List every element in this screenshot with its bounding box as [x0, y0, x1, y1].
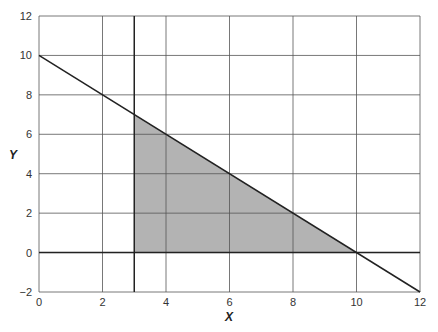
y-tick-label: 0 — [26, 247, 32, 259]
x-tick-label: 0 — [36, 296, 42, 308]
x-tick-label: 12 — [414, 296, 426, 308]
y-tick-label: 2 — [26, 207, 32, 219]
x-tick-label: 8 — [290, 296, 296, 308]
x-tick-label: 2 — [99, 296, 105, 308]
x-tick-label: 4 — [163, 296, 169, 308]
y-tick-label: 12 — [20, 10, 32, 22]
x-axis-label: X — [224, 310, 234, 324]
y-tick-label: 10 — [20, 49, 32, 61]
chart: 024681012−2024681012 X Y — [0, 0, 438, 332]
y-tick-label: −2 — [19, 286, 32, 298]
y-tick-label: 8 — [26, 89, 32, 101]
x-tick-label: 10 — [350, 296, 362, 308]
grid — [39, 16, 420, 292]
x-tick-label: 6 — [226, 296, 232, 308]
tick-labels: 024681012−2024681012 — [19, 10, 426, 308]
y-tick-label: 6 — [26, 128, 32, 140]
y-tick-label: 4 — [26, 168, 32, 180]
y-axis-label: Y — [9, 148, 18, 162]
